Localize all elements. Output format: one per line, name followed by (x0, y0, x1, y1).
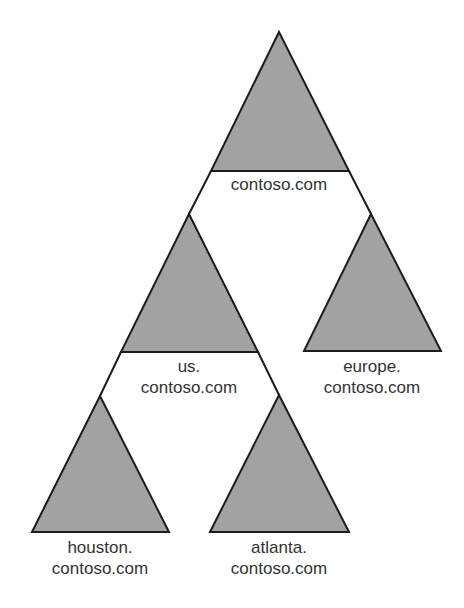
label-us-line2: contoso.com (109, 377, 269, 398)
label-atlanta-line2: contoso.com (199, 558, 359, 579)
label-root-line1: contoso.com (199, 174, 359, 195)
label-atlanta-line1: atlanta. (199, 537, 359, 558)
domain-tree-diagram: contoso.com us. contoso.com europe. cont… (0, 0, 464, 608)
label-europe-line1: europe. (292, 356, 452, 377)
label-houston-domain: houston. contoso.com (20, 537, 180, 579)
label-us-line1: us. (109, 356, 269, 377)
triangle-houston-domain (32, 396, 169, 532)
diagram-canvas (0, 0, 464, 608)
label-europe-line2: contoso.com (292, 377, 452, 398)
label-europe-domain: europe. contoso.com (292, 356, 452, 398)
label-atlanta-domain: atlanta. contoso.com (199, 537, 359, 579)
label-houston-line1: houston. (20, 537, 180, 558)
triangle-atlanta-domain (210, 395, 349, 532)
triangle-us-domain (121, 214, 258, 352)
label-root-domain: contoso.com (199, 174, 359, 195)
label-houston-line2: contoso.com (20, 558, 180, 579)
label-us-domain: us. contoso.com (109, 356, 269, 398)
triangle-root-domain (211, 32, 349, 171)
triangle-europe-domain (304, 214, 441, 351)
